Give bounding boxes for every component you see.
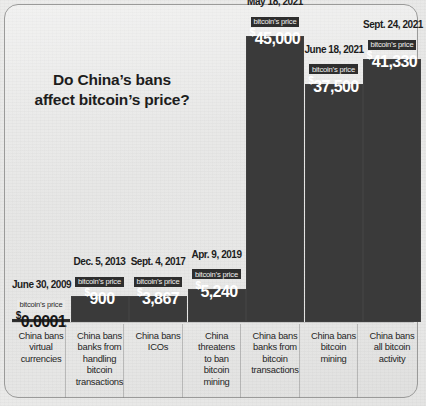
bar-column: Dec. 5, 2013bitcoin’s price$900China ban… xyxy=(71,0,129,406)
price-value: $45,000 xyxy=(246,28,304,48)
bar-price-block: bitcoin’s price$37,500 xyxy=(305,58,363,96)
bar-chart: June 30, 2009bitcoin’s price$0.0001China… xyxy=(0,0,426,406)
caption-line: bitcoin xyxy=(305,341,363,352)
caption-line: threatens xyxy=(188,341,246,352)
caption-line: China bans xyxy=(71,330,129,341)
bar-date-label: Dec. 5, 2013 xyxy=(71,256,129,267)
bar-price-block: bitcoin’s price$3,867 xyxy=(129,270,187,308)
caption-separator xyxy=(299,324,300,398)
caption-line: mining xyxy=(305,353,363,364)
caption-separator xyxy=(182,324,183,398)
caption-line: China bans xyxy=(129,330,187,341)
caption-line: China bans xyxy=(305,330,363,341)
price-value: $5,240 xyxy=(188,281,246,301)
price-value: $900 xyxy=(71,288,129,308)
bar-caption: China bansvirtualcurrencies xyxy=(12,330,70,364)
bar-date-label: June 30, 2009 xyxy=(12,279,70,290)
price-caption: bitcoin’s price xyxy=(17,300,66,310)
bar-date-label: Sept. 4, 2017 xyxy=(129,256,187,267)
price-caption: bitcoin’s price xyxy=(134,277,183,287)
bar-rect[interactable] xyxy=(363,59,421,322)
caption-line: ICOs xyxy=(129,341,187,352)
caption-line: bitcoin xyxy=(246,353,304,364)
bar-date-label: May 18, 2021 xyxy=(246,0,304,7)
caption-line: China bans xyxy=(246,330,304,341)
bar-column: Apr. 9, 2019bitcoin’s price$5,240Chinath… xyxy=(188,0,246,406)
bar-date-label: Apr. 9, 2019 xyxy=(188,249,246,260)
bar-column: June 18, 2021bitcoin’s price$37,500China… xyxy=(305,0,363,406)
bar-column: June 30, 2009bitcoin’s price$0.0001China… xyxy=(12,0,70,406)
caption-separator xyxy=(123,324,124,398)
price-value: $41,330 xyxy=(363,51,421,71)
caption-line: bitcoin xyxy=(188,364,246,375)
bar-date-label: Sept. 24, 2021 xyxy=(363,19,421,30)
caption-line: to ban xyxy=(188,353,246,364)
bar-price-block: bitcoin’s price$900 xyxy=(71,270,129,308)
caption-line: handling xyxy=(71,353,129,364)
caption-line: activity xyxy=(363,353,421,364)
bar-caption: China bansbitcoinmining xyxy=(305,330,363,364)
price-caption: bitcoin’s price xyxy=(251,17,300,27)
price-value: $3,867 xyxy=(129,288,187,308)
bar-caption: China bansbanks frombitcointransactions xyxy=(246,330,304,376)
price-caption: bitcoin’s price xyxy=(192,269,241,279)
bar-date-label: June 18, 2021 xyxy=(305,44,363,55)
bar-rect[interactable] xyxy=(246,36,304,322)
caption-line: China bans xyxy=(363,330,421,341)
infographic-poster: Do China’s bans affect bitcoin’s price? … xyxy=(0,0,426,406)
caption-separator xyxy=(357,324,358,398)
caption-line: all bitcoin xyxy=(363,341,421,352)
bar-caption: China bansall bitcoinactivity xyxy=(363,330,421,364)
caption-line: virtual xyxy=(12,341,70,352)
price-value: $0.0001 xyxy=(12,311,70,331)
caption-line: China bans xyxy=(12,330,70,341)
bar-column: Sept. 24, 2021bitcoin’s price$41,330Chin… xyxy=(363,0,421,406)
bar-price-block: bitcoin’s price$45,000 xyxy=(246,10,304,48)
bar-caption: China bansICOs xyxy=(129,330,187,353)
caption-line: currencies xyxy=(12,353,70,364)
bar-price-block: bitcoin’s price$0.0001 xyxy=(12,293,70,331)
bar-price-block: bitcoin’s price$5,240 xyxy=(188,263,246,301)
bar-caption: China bansbanks fromhandlingbitcointrans… xyxy=(71,330,129,387)
bar-caption: Chinathreatensto banbitcoinmining xyxy=(188,330,246,387)
caption-line: banks from xyxy=(246,341,304,352)
caption-separator xyxy=(65,324,66,398)
bar-rect[interactable] xyxy=(305,84,363,322)
caption-line: bitcoin xyxy=(71,364,129,375)
price-caption: bitcoin’s price xyxy=(309,64,358,74)
bar-price-block: bitcoin’s price$41,330 xyxy=(363,33,421,71)
caption-line: transactions xyxy=(71,376,129,387)
price-caption: bitcoin’s price xyxy=(368,40,417,50)
caption-separator xyxy=(240,324,241,398)
bar-column: May 18, 2021bitcoin’s price$45,000China … xyxy=(246,0,304,406)
bar-column: Sept. 4, 2017bitcoin’s price$3,867China … xyxy=(129,0,187,406)
caption-line: transactions xyxy=(246,364,304,375)
price-value: $37,500 xyxy=(305,76,363,96)
caption-line: banks from xyxy=(71,341,129,352)
caption-line: China xyxy=(188,330,246,341)
caption-line: mining xyxy=(188,376,246,387)
price-caption: bitcoin’s price xyxy=(75,277,124,287)
